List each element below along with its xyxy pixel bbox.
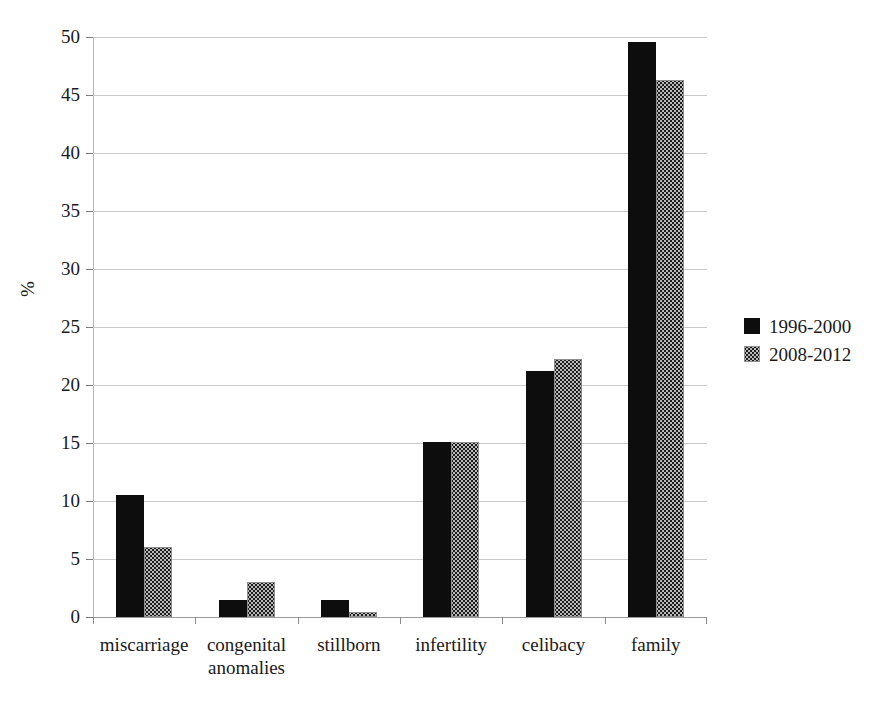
y-axis-tick bbox=[86, 211, 93, 212]
y-axis-tick-label: 5 bbox=[36, 549, 80, 568]
x-axis-tick bbox=[605, 617, 606, 624]
bar bbox=[423, 442, 451, 617]
bar bbox=[628, 42, 656, 617]
bar bbox=[219, 600, 247, 617]
y-axis-tick bbox=[86, 559, 93, 560]
x-axis-tick bbox=[93, 617, 94, 624]
bar bbox=[656, 80, 684, 617]
x-axis-tick bbox=[706, 617, 707, 624]
legend-item: 2008-2012 bbox=[744, 340, 851, 368]
y-axis-tick-label: 50 bbox=[36, 27, 80, 46]
legend-label: 1996-2000 bbox=[769, 317, 851, 336]
legend-item: 1996-2000 bbox=[744, 312, 851, 340]
y-axis-tick-label: 45 bbox=[36, 85, 80, 104]
gridline bbox=[93, 95, 707, 96]
y-axis-tick bbox=[86, 617, 93, 618]
y-axis-tick-label: 15 bbox=[36, 433, 80, 452]
y-axis-tick bbox=[86, 37, 93, 38]
gridline bbox=[93, 385, 707, 386]
legend-swatch bbox=[744, 318, 760, 334]
y-axis-tick-label: 40 bbox=[36, 143, 80, 162]
gridline bbox=[93, 559, 707, 560]
x-axis-tick bbox=[400, 617, 401, 624]
gridline bbox=[93, 269, 707, 270]
y-axis-tick-label: 30 bbox=[36, 259, 80, 278]
x-axis-tick bbox=[298, 617, 299, 624]
y-axis-tick bbox=[86, 443, 93, 444]
bar bbox=[526, 371, 554, 617]
y-axis-tick bbox=[86, 385, 93, 386]
y-axis-tick bbox=[86, 95, 93, 96]
bar bbox=[451, 442, 479, 617]
gridline bbox=[93, 153, 707, 154]
bar bbox=[144, 547, 172, 617]
x-axis-category-label: family bbox=[576, 633, 736, 656]
y-axis-tick-label: 0 bbox=[36, 607, 80, 626]
bar-chart: % miscarriagecongenitalanomaliesstillbor… bbox=[0, 0, 891, 704]
y-axis-tick bbox=[86, 501, 93, 502]
legend-label: 2008-2012 bbox=[769, 345, 851, 364]
gridline bbox=[93, 443, 707, 444]
plot-area bbox=[93, 37, 707, 617]
x-axis-tick bbox=[502, 617, 503, 624]
x-axis-label-line: anomalies bbox=[167, 656, 327, 679]
y-axis-tick-label: 25 bbox=[36, 317, 80, 336]
y-axis-title: % bbox=[18, 281, 37, 297]
y-axis-tick-label: 10 bbox=[36, 491, 80, 510]
legend-swatch bbox=[744, 346, 760, 362]
bar bbox=[116, 495, 144, 617]
gridline bbox=[93, 327, 707, 328]
x-axis-label-line: family bbox=[576, 633, 736, 656]
gridline bbox=[93, 501, 707, 502]
gridline bbox=[93, 37, 707, 38]
bar bbox=[247, 582, 275, 617]
y-axis-tick bbox=[86, 153, 93, 154]
bar bbox=[349, 612, 377, 617]
x-axis-tick bbox=[195, 617, 196, 624]
y-axis-tick bbox=[86, 269, 93, 270]
gridline bbox=[93, 211, 707, 212]
chart-legend: 1996-20002008-2012 bbox=[744, 312, 851, 368]
y-axis-tick bbox=[86, 327, 93, 328]
y-axis-tick-label: 20 bbox=[36, 375, 80, 394]
bar bbox=[554, 359, 582, 617]
y-axis-tick-label: 35 bbox=[36, 201, 80, 220]
bar bbox=[321, 600, 349, 617]
